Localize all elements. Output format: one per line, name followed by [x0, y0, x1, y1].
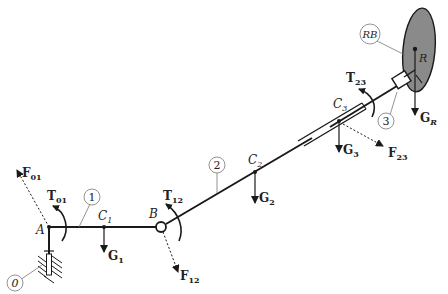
- part-1-label: 1: [79, 189, 100, 227]
- point-C2-label: C2: [248, 153, 262, 169]
- force-GR-label: GR: [420, 111, 437, 127]
- torque-T12-label: T12: [163, 189, 183, 205]
- force-G2-label: G2: [259, 191, 275, 207]
- link-2: [166, 138, 312, 224]
- point-C1-label: C1: [98, 209, 112, 225]
- force-G3-label: G3: [343, 143, 359, 159]
- force-F01-label: F01: [22, 166, 42, 182]
- joint-B: [156, 222, 166, 232]
- part-RB-label: RB: [360, 24, 405, 55]
- force-G1-label: G1: [108, 249, 124, 265]
- part-0-label: 0: [7, 265, 42, 291]
- point-R-label: R: [418, 52, 427, 65]
- force-F23-label: F23: [388, 146, 408, 162]
- mechanism-diagram: 0 A 1 F01 T01 C1 G1 B T12 F12 2 C2 G2: [0, 0, 448, 294]
- svg-text:2: 2: [214, 159, 221, 172]
- point-C3-label: C3: [333, 97, 347, 113]
- point-B-label: B: [148, 207, 158, 221]
- point-A-label: A: [35, 223, 45, 237]
- part-3-label: 3: [378, 92, 397, 129]
- svg-text:0: 0: [12, 277, 19, 290]
- svg-text:3: 3: [383, 115, 390, 128]
- force-F12-arrow: [163, 232, 178, 272]
- force-F12-label: F12: [180, 269, 200, 285]
- svg-text:1: 1: [89, 191, 96, 204]
- torque-T23-label: T23: [346, 71, 367, 87]
- part-2-label: 2: [209, 157, 225, 193]
- torque-T01-arrow: [53, 206, 66, 241]
- torque-T01-label: T01: [47, 189, 67, 205]
- svg-text:RB: RB: [362, 29, 378, 40]
